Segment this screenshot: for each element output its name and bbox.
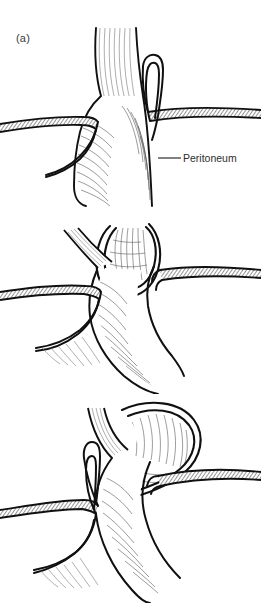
panel-c-illustration xyxy=(0,394,261,603)
hiatal-hernia-figure: (a) Peritoneum xyxy=(0,0,261,603)
panel-label-a: (a) xyxy=(16,32,30,44)
panel-a: (a) Peritoneum xyxy=(0,0,261,208)
panel-c: (c) xyxy=(0,394,261,603)
peritoneum-label: Peritoneum xyxy=(183,152,237,164)
panel-b-illustration xyxy=(0,208,261,394)
panel-a-illustration xyxy=(0,0,261,208)
panel-b: (b) xyxy=(0,208,261,394)
